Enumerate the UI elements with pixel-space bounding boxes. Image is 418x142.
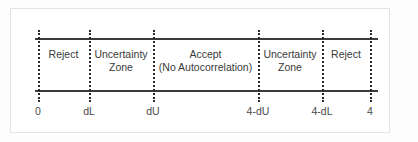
axis-tick-label: 4 <box>367 105 373 118</box>
decision-zone: Reject <box>322 48 370 84</box>
axis-tick-label: 4-dL <box>311 105 332 118</box>
decision-zone: Accept(No Autocorrelation) <box>153 48 258 84</box>
decision-zone-label-line2: (No Autocorrelation) <box>159 61 252 74</box>
decision-zone: UncertaintyZone <box>258 48 322 84</box>
axis-tick-label: 4-dU <box>247 105 270 118</box>
axis-tick-label: 0 <box>35 105 41 118</box>
axis-tick-label: dL <box>83 105 95 118</box>
boundary-line <box>370 30 372 102</box>
decision-zone-label-line1: Uncertainty <box>263 48 316 61</box>
axis-tick-label: dU <box>146 105 159 118</box>
axis-line-bottom <box>35 90 378 92</box>
decision-axis-plot: 0dLdU4-dU4-dL4 RejectUncertaintyZoneAcce… <box>0 0 418 142</box>
axis-line-top <box>35 38 378 40</box>
decision-zone-label-line1: Uncertainty <box>94 48 147 61</box>
durbin-watson-figure: 0dLdU4-dU4-dL4 RejectUncertaintyZoneAcce… <box>0 0 418 142</box>
decision-zone-label-line1: Accept <box>189 48 221 61</box>
decision-zone: Reject <box>38 48 89 84</box>
decision-zone-label-line1: Reject <box>331 48 361 61</box>
decision-zone-label-line1: Reject <box>49 48 79 61</box>
decision-zone-label-line2: Zone <box>109 61 133 74</box>
decision-zone: UncertaintyZone <box>89 48 153 84</box>
decision-zone-label-line2: Zone <box>278 61 302 74</box>
